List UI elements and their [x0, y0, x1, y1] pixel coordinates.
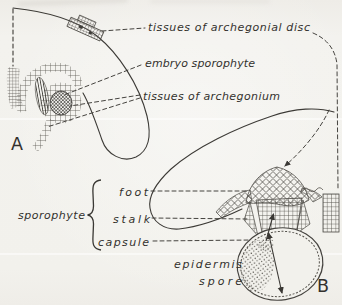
label-sporophyte: sporophyte [18, 209, 85, 222]
disc-tissue-left-column [13, 68, 17, 107]
figure-page: tissues of archegonial disc embryo sporo… [0, 0, 342, 305]
panel-b-letter: B [317, 276, 329, 296]
archegonium-tissue-tail [35, 119, 51, 149]
leader-stalk [152, 218, 249, 219]
leader-archegonial-disc-b [313, 33, 338, 189]
label-tissues-of-archegonium: tissues of archegonium [143, 90, 280, 103]
label-stalk: stalk [113, 213, 151, 226]
label-embryo-sporophyte: embryo sporophyte [145, 57, 255, 70]
foot-pointer-dashed-arrow [285, 110, 329, 166]
archegonial-disc-strip-b [323, 194, 339, 232]
panel-a-tissues [13, 12, 106, 149]
label-tissues-of-archegonial-disc: tissues of archegonial disc [148, 21, 310, 34]
label-spore: spore [199, 275, 242, 288]
leader-archegonial-disc-a [102, 28, 145, 31]
calyptra-flap-left [244, 202, 258, 236]
label-capsule: capsule [98, 236, 149, 249]
leader-capsule [153, 240, 253, 241]
embryo-sporophyte-mass [50, 91, 72, 115]
archegonial-disc-fragment-a [67, 12, 106, 41]
panel-a-letter: A [11, 134, 23, 154]
figure-canvas: tissues of archegonial disc embryo sporo… [0, 0, 342, 305]
label-foot: foot [119, 186, 149, 199]
label-epidermis: epidermis [174, 258, 242, 271]
